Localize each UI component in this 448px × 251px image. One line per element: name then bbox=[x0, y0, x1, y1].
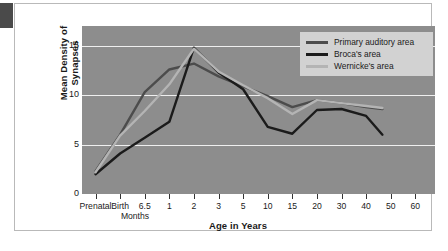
y-axis-tick-labels: 151050 bbox=[61, 26, 79, 194]
corner-marker-block bbox=[0, 3, 13, 28]
x-tick-mark bbox=[391, 194, 392, 199]
x-tick-mark bbox=[219, 194, 220, 199]
x-tick-mark bbox=[317, 194, 318, 199]
x-tick-label: Prenatal bbox=[80, 201, 112, 211]
legend-item: Wernicke's area bbox=[306, 60, 428, 72]
figure-root: Mean Density of Synapses 151050 Primary … bbox=[0, 0, 448, 251]
x-tick-label: 6.5 bbox=[139, 201, 151, 211]
x-tick-label: 60 bbox=[411, 201, 421, 211]
x-tick-mark bbox=[194, 194, 195, 199]
x-tick-mark bbox=[145, 194, 146, 199]
x-axis-tick-marks bbox=[82, 194, 435, 200]
x-tick-label: Birth bbox=[111, 201, 129, 211]
legend-label: Broca's area bbox=[334, 49, 381, 59]
x-tick-mark bbox=[243, 194, 244, 199]
figure-card: Mean Density of Synapses 151050 Primary … bbox=[14, 3, 432, 231]
x-tick-mark bbox=[96, 194, 97, 199]
x-tick-mark bbox=[366, 194, 367, 199]
x-tick-label: 30 bbox=[337, 201, 347, 211]
x-axis-tick-labels: PrenatalBirth6.5123510152030405060 bbox=[15, 201, 445, 215]
chart-legend: Primary auditory areaBroca's areaWernick… bbox=[300, 32, 433, 76]
x-tick-mark bbox=[120, 194, 121, 199]
x-tick-mark bbox=[415, 194, 416, 199]
y-tick-label: 15 bbox=[65, 40, 79, 50]
legend-swatch-icon bbox=[306, 41, 328, 44]
y-tick-label: 0 bbox=[65, 188, 79, 198]
x-tick-label: 10 bbox=[263, 201, 273, 211]
legend-item: Primary auditory area bbox=[306, 36, 428, 48]
x-axis-title: Age in Years bbox=[29, 220, 447, 231]
x-tick-label: 40 bbox=[361, 201, 371, 211]
x-tick-label: 5 bbox=[241, 201, 246, 211]
legend-swatch-icon bbox=[306, 65, 328, 68]
x-tick-label: 50 bbox=[386, 201, 396, 211]
x-tick-label: 2 bbox=[192, 201, 197, 211]
x-tick-label: 20 bbox=[312, 201, 322, 211]
legend-swatch-icon bbox=[306, 53, 328, 56]
legend-item: Broca's area bbox=[306, 48, 428, 60]
y-tick-label: 5 bbox=[65, 139, 79, 149]
legend-label: Primary auditory area bbox=[334, 37, 414, 47]
x-tick-mark bbox=[268, 194, 269, 199]
y-tick-label: 10 bbox=[65, 89, 79, 99]
x-tick-mark bbox=[169, 194, 170, 199]
x-tick-label: 3 bbox=[216, 201, 221, 211]
x-tick-mark bbox=[292, 194, 293, 199]
legend-label: Wernicke's area bbox=[334, 61, 394, 71]
x-tick-mark bbox=[342, 194, 343, 199]
x-tick-label: 1 bbox=[167, 201, 172, 211]
x-tick-label: 15 bbox=[288, 201, 298, 211]
plot-area: Primary auditory areaBroca's areaWernick… bbox=[82, 26, 435, 194]
